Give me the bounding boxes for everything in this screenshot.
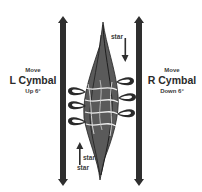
left-cymbal-amount: Up 6° [8,88,58,94]
cymbal-diagram: Move L Cymbal Up 6° Move R Cymbal Down 6… [0,0,202,192]
bottom-star-label: star [77,165,89,172]
left-bar-up-arrowhead-icon [58,16,68,23]
down-arrow-icon [122,38,129,62]
right-cymbal-bar [134,16,144,186]
bottom-start-label: start [83,155,97,162]
left-move-text: Move [8,67,58,73]
right-cymbal-amount: Down 6° [144,88,200,94]
diagram-graphic [0,0,202,192]
right-cymbal-title: R Cymbal [144,75,200,86]
right-bar-down-arrowhead-icon [134,179,144,186]
right-loops [116,77,136,117]
left-cymbal-title: L Cymbal [8,75,58,86]
left-cymbal-label: Move L Cymbal Up 6° [8,67,58,94]
right-cymbal-label: Move R Cymbal Down 6° [144,67,200,94]
left-cymbal-bar [58,16,68,186]
left-bar-down-arrowhead-icon [58,179,68,186]
left-loops [68,87,86,125]
right-move-text: Move [144,67,200,73]
top-star-label: star [111,34,123,41]
right-bar-up-arrowhead-icon [134,16,144,23]
